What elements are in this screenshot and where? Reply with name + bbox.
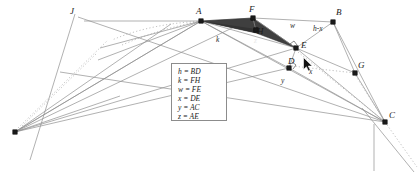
shaded-region	[201, 18, 296, 48]
legend-row-z: z = AE	[178, 112, 226, 121]
ray-A-to-J	[100, 21, 201, 48]
diagram-canvas-area: JAFBHEDGC kzwh-xxy h = BDk = FHw = FEx =…	[0, 0, 420, 176]
ray-L-to-D	[15, 68, 289, 132]
shade-A-F-E	[201, 18, 296, 48]
dotted-inner-lines	[292, 52, 417, 167]
line-F-B	[253, 18, 333, 22]
point-marker-B[interactable]	[331, 20, 335, 24]
dotted-below-C	[385, 122, 417, 167]
dotted-D-G	[292, 66, 355, 73]
point-marker-L[interactable]	[13, 130, 17, 134]
line-E-C	[296, 48, 385, 122]
point-marker-G[interactable]	[353, 71, 357, 75]
rays-from-left-vertex	[15, 18, 296, 132]
ray-L-to-G	[15, 96, 120, 132]
below-C-lines	[362, 108, 414, 172]
lower-left-rays	[15, 68, 289, 132]
legend-row-k: k = FH	[178, 76, 226, 85]
legend-row-y: y = AC	[178, 103, 226, 112]
point-marker-F[interactable]	[251, 16, 255, 20]
measurement-legend: h = BDk = FHw = FEx = DEy = ACz = AE	[171, 63, 227, 121]
point-marker-E[interactable]	[294, 46, 298, 50]
line-G-C	[355, 73, 385, 122]
point-marker-A[interactable]	[199, 19, 203, 23]
line-B-E	[296, 22, 333, 48]
legend-row-w: w = FE	[178, 85, 226, 94]
ray-J-down-left	[30, 14, 75, 160]
point-marker-C[interactable]	[383, 120, 387, 124]
ray-L-up	[15, 24, 171, 132]
legend-row-x: x = DE	[178, 94, 226, 103]
line-E-D	[289, 48, 296, 68]
arc-A-left2	[122, 21, 201, 45]
point-marker-D[interactable]	[287, 66, 291, 70]
legend-row-h: h = BD	[178, 67, 226, 76]
right-angle-D	[292, 62, 296, 69]
point-marker-H[interactable]	[254, 28, 258, 32]
line-C-diagonal	[362, 108, 414, 172]
